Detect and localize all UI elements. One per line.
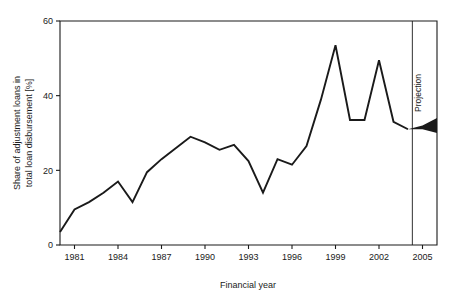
x-tick-label: 2005 — [412, 252, 432, 262]
x-tick-label: 2002 — [369, 252, 389, 262]
x-tick-label: 1987 — [151, 252, 171, 262]
x-tick-label: 1981 — [64, 252, 84, 262]
x-tick-label: 1993 — [238, 252, 258, 262]
x-tick-label: 1999 — [325, 252, 345, 262]
x-tick-label: 1990 — [195, 252, 215, 262]
x-tick-label: 1996 — [282, 252, 302, 262]
y-axis-ticks: 0204060 — [43, 16, 60, 250]
x-tick-label: 1984 — [108, 252, 128, 262]
line-chart: 0204060 19811984198719901993199619992002… — [0, 0, 453, 295]
x-axis-title: Financial year — [220, 280, 276, 290]
y-tick-label: 20 — [43, 166, 53, 176]
y-axis-title-line2: total loan disbursement [%] — [24, 79, 34, 188]
axis-frame — [60, 21, 437, 245]
y-axis-title-line1: Share of adjustment loans in — [12, 76, 22, 190]
y-tick-label: 0 — [48, 240, 53, 250]
chart-figure: 0204060 19811984198719901993199619992002… — [0, 0, 453, 295]
data-series-line — [60, 45, 408, 232]
x-axis-ticks: 198119841987199019931996199920022005 — [64, 245, 432, 262]
projection-label: Projection — [413, 74, 423, 112]
y-tick-label: 40 — [43, 91, 53, 101]
y-tick-label: 60 — [43, 16, 53, 26]
